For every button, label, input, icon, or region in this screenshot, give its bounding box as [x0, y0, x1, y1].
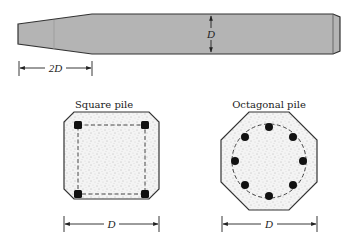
- pile-elevation: D 2D: [18, 14, 340, 76]
- square-pile-width-label: D: [107, 218, 116, 230]
- square-pile-section: Square pile D: [64, 99, 159, 232]
- taper-length-dimension: 2D: [19, 61, 92, 76]
- taper-length-label: 2D: [49, 62, 63, 74]
- octagonal-pile-section: Octagonal pile D: [221, 99, 317, 232]
- pile-diagram: D 2D Square pile D Octagonal p: [0, 0, 356, 241]
- octagonal-pile-width-label: D: [264, 218, 273, 230]
- depth-label: D: [206, 28, 215, 40]
- octagonal-pile-title: Octagonal pile: [232, 99, 306, 110]
- octagonal-pile-width-dimension: D: [222, 216, 317, 232]
- square-pile-title: Square pile: [75, 99, 133, 110]
- square-pile-width-dimension: D: [64, 216, 159, 232]
- pile-body: [18, 14, 340, 54]
